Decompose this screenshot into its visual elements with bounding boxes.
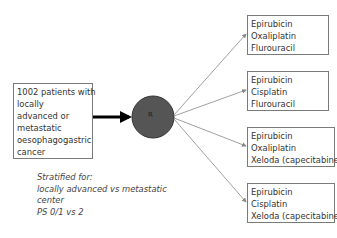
drug-name: Xeloda (capecitabine) bbox=[251, 210, 331, 222]
arm-arrow-4 bbox=[174, 119, 246, 202]
drug-name: Epirubicin bbox=[251, 18, 325, 30]
population-line: advanced or bbox=[17, 110, 89, 122]
drug-name: Cisplatin bbox=[251, 198, 331, 210]
drug-name: Xeloda (capecitabine) bbox=[251, 154, 331, 166]
stratification-line: PS 0/1 vs 2 bbox=[37, 207, 167, 219]
drug-name: Epirubicin bbox=[251, 130, 331, 142]
stratification-note: Stratified for: locally advanced vs meta… bbox=[37, 172, 167, 218]
population-line: oesophagogastric bbox=[17, 134, 89, 146]
drug-name: Flurouracil bbox=[251, 98, 325, 110]
population-line: metastatic bbox=[17, 122, 89, 134]
drug-name: Oxaliplatin bbox=[251, 30, 325, 42]
randomisation-circle bbox=[132, 96, 174, 138]
drug-name: Oxaliplatin bbox=[251, 142, 331, 154]
drug-name: Cisplatin bbox=[251, 86, 325, 98]
randomisation-label: R bbox=[148, 111, 153, 119]
drug-name: Epirubicin bbox=[251, 74, 325, 86]
population-line: locally bbox=[17, 98, 89, 110]
arm-box-1: Epirubicin Oxaliplatin Flurouracil bbox=[247, 15, 329, 55]
population-line: 1002 patients with bbox=[17, 86, 89, 98]
stratification-line: center bbox=[37, 195, 167, 207]
arm-box-3: Epirubicin Oxaliplatin Xeloda (capecitab… bbox=[247, 127, 335, 167]
stratification-line: Stratified for: bbox=[37, 172, 167, 184]
arm-box-4: Epirubicin Cisplatin Xeloda (capecitabin… bbox=[247, 183, 335, 223]
arm-box-2: Epirubicin Cisplatin Flurouracil bbox=[247, 71, 329, 111]
drug-name: Flurouracil bbox=[251, 42, 325, 54]
stratification-line: locally advanced vs metastatic bbox=[37, 184, 167, 196]
population-line: cancer bbox=[17, 146, 89, 158]
drug-name: Epirubicin bbox=[251, 186, 331, 198]
population-box: 1002 patients with locally advanced or m… bbox=[13, 83, 93, 159]
